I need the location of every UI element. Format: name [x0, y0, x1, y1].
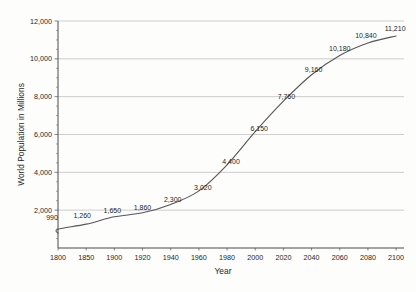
data-point-label: 7,760	[278, 93, 296, 100]
data-point-labels-group: 9901,2601,6501,8602,3003,0204,4006,1507,…	[46, 25, 406, 221]
x-tick-label: 1850	[78, 253, 94, 262]
x-tick-label: 1800	[50, 253, 66, 262]
x-tick-label: 1940	[163, 253, 179, 262]
y-tick-label: 4,000	[34, 168, 52, 177]
y-tick-label: 8,000	[34, 92, 52, 101]
y-tick-label: 12,000	[30, 17, 52, 26]
data-point-label: 1,650	[104, 207, 122, 214]
y-tick-label: 10,000	[30, 54, 52, 63]
data-point-label: 4,400	[222, 158, 240, 165]
data-point-label: 1,860	[134, 204, 152, 211]
y-tick-labels-group: 2,0004,0006,0008,00010,00012,000	[30, 17, 52, 215]
data-point-label: 10,180	[329, 45, 351, 52]
x-tick-label: 1960	[191, 253, 207, 262]
data-point-label: 2,300	[164, 196, 182, 203]
x-tick-label: 2040	[304, 253, 320, 262]
data-point-label: 1,260	[73, 212, 91, 219]
data-point-label: 3,020	[194, 184, 212, 191]
y-tick-label: 6,000	[34, 130, 52, 139]
x-tick-label: 1920	[135, 253, 151, 262]
x-tick-labels-group: 1800185019001920194019601980200020202040…	[50, 253, 404, 262]
x-tick-label: 1900	[106, 253, 122, 262]
data-point-label: 10,840	[355, 32, 377, 39]
x-tick-label: 2080	[360, 253, 376, 262]
x-tick-label: 2100	[388, 253, 404, 262]
data-point-label: 9,160	[305, 66, 323, 73]
data-point-label: 990	[46, 214, 58, 221]
y-axis-title: World Population in Millions	[16, 83, 26, 186]
x-tick-label: 2000	[247, 253, 263, 262]
x-tick-label: 2060	[332, 253, 348, 262]
population-chart: 2,0004,0006,0008,00010,00012,000 1800185…	[0, 0, 416, 292]
data-point-label: 11,210	[385, 25, 406, 32]
x-tick-label: 2020	[275, 253, 291, 262]
x-tick-label: 1980	[219, 253, 235, 262]
data-point-label: 6,150	[250, 125, 268, 132]
chart-canvas: 2,0004,0006,0008,00010,00012,000 1800185…	[0, 0, 416, 292]
x-axis-title: Year	[215, 266, 232, 276]
major-ticks-group	[55, 21, 397, 251]
